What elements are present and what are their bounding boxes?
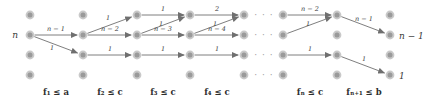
graph-node-r3c5 bbox=[240, 51, 249, 60]
row-ellipsis-2: · · · bbox=[254, 30, 273, 40]
graph-node-r4c8 bbox=[386, 71, 395, 80]
diagram-canvas: n − 111n − 2111n − 3121n − 41n − 211n − … bbox=[0, 0, 435, 102]
capacity-label-3: f₃ ≤ c bbox=[150, 87, 176, 97]
graph-node-r3c8 bbox=[386, 51, 395, 60]
graph-node-r3c6 bbox=[279, 51, 288, 60]
edge-r2c3-r2c4-label: n − 3 bbox=[154, 25, 172, 33]
graph-node-r4c7 bbox=[333, 71, 342, 80]
flow-network-diagram: n − 111n − 2111n − 3121n − 41n − 211n − … bbox=[0, 0, 435, 102]
graph-node-r2c2 bbox=[79, 31, 88, 40]
capacity-label-2: f₂ ≤ c bbox=[97, 87, 123, 97]
graph-node-r4c1 bbox=[26, 71, 35, 80]
row-ellipsis-4: · · · bbox=[254, 70, 273, 80]
graph-node-r1c6 bbox=[279, 11, 288, 20]
edge-r2c6-r1c7-label: 1 bbox=[306, 20, 310, 28]
graph-node-r4c2 bbox=[79, 71, 88, 80]
graph-node-r4c5 bbox=[240, 71, 249, 80]
edge-r2c1-r3c2 bbox=[34, 37, 77, 53]
graph-node-r1c5 bbox=[240, 11, 249, 20]
edge-r1c3-r1c4-label: 1 bbox=[161, 5, 165, 13]
graph-node-r2c7 bbox=[333, 31, 342, 40]
edge-r2c2-r1c3-label: 1 bbox=[106, 14, 110, 22]
graph-node-r1c1 bbox=[26, 11, 35, 20]
graph-node-r2c3 bbox=[133, 31, 142, 40]
edge-r2c1-r3c2-label: 1 bbox=[50, 44, 54, 52]
graph-node-r2c4 bbox=[186, 31, 195, 40]
graph-node-r3c1 bbox=[26, 51, 35, 60]
capacity-label-n-plus-1: fₙ₊₁ ≤ b bbox=[346, 87, 381, 97]
graph-node-r1c7 bbox=[333, 11, 342, 20]
edge-r1c4-r1c5-label: 2 bbox=[214, 5, 219, 13]
graph-node-r4c3 bbox=[133, 71, 142, 80]
graph-node-r3c2 bbox=[79, 51, 88, 60]
capacity-label-n: fₙ ≤ c bbox=[297, 87, 323, 97]
graph-node-r2c6 bbox=[279, 31, 288, 40]
edge-r2c4-r2c5-label: n − 4 bbox=[208, 25, 226, 33]
capacity-label-4: f₄ ≤ c bbox=[204, 87, 230, 97]
capacity-labels-layer: f₁ ≤ af₂ ≤ cf₃ ≤ cf₄ ≤ cfₙ ≤ cfₙ₊₁ ≤ b bbox=[43, 87, 382, 97]
edge-r3c4-r3c5-label: 1 bbox=[215, 45, 219, 53]
edge-r3c6-r3c7-label: 1 bbox=[308, 45, 312, 53]
graph-node-r3c4 bbox=[186, 51, 195, 60]
graph-node-r4c4 bbox=[186, 71, 195, 80]
edge-r1c6-r1c7-label: n − 2 bbox=[301, 5, 319, 13]
edge-r2c2-r2c3-label: n − 2 bbox=[101, 25, 119, 33]
graph-node-r3c7 bbox=[333, 51, 342, 60]
edge-r3c7-r4c8-label: 1 bbox=[362, 55, 366, 63]
graph-node-r2c5 bbox=[240, 31, 249, 40]
graph-node-r1c8 bbox=[386, 11, 395, 20]
nodes-layer bbox=[26, 11, 395, 80]
edge-r3c3-r3c4-label: 1 bbox=[161, 45, 165, 53]
row-ellipsis-3: · · · bbox=[254, 50, 273, 60]
row-ellipsis-1: · · · bbox=[254, 10, 273, 20]
graph-node-r3c3 bbox=[133, 51, 142, 60]
capacity-label-1: f₁ ≤ a bbox=[43, 87, 69, 97]
edge-r3c2-r3c3-label: 1 bbox=[108, 45, 112, 53]
ellipsis-layer: · · ·· · ·· · ·· · · bbox=[254, 10, 273, 80]
edge-labels-layer: n − 111n − 2111n − 3121n − 41n − 211n − … bbox=[47, 5, 373, 63]
graph-node-r1c3 bbox=[133, 11, 142, 20]
graph-node-r2c8 bbox=[386, 31, 395, 40]
edge-r1c7-r2c8-label: n − 1 bbox=[355, 15, 373, 23]
graph-node-r1c4 bbox=[186, 11, 195, 20]
graph-node-r2c1 bbox=[26, 31, 35, 40]
source-label: n bbox=[12, 30, 18, 40]
graph-node-r4c6 bbox=[279, 71, 288, 80]
sink-upper-label: n − 1 bbox=[399, 31, 424, 41]
sink-lower-label: 1 bbox=[399, 71, 405, 81]
edges-layer bbox=[34, 15, 384, 73]
edge-r2c1-r2c2-label: n − 1 bbox=[47, 25, 65, 33]
graph-node-r1c2 bbox=[79, 11, 88, 20]
